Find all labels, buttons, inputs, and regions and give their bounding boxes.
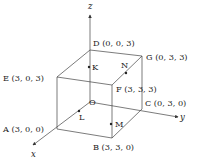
vertex-e-label: E (3, 0, 3) [3,73,44,83]
point-n-label: N [121,60,128,70]
y-axis-label: y [179,112,185,122]
vertex-d-label: D (0, 0, 3) [93,38,135,48]
vertex-c-label: C (0, 3, 0) [145,98,186,108]
point-k-dot [88,66,90,68]
point-m-dot [110,123,112,125]
axes [33,15,178,145]
point-m-label: M [115,119,123,129]
vertex-g-label: G (0, 3, 3) [146,52,188,62]
origin-label: O [89,97,96,107]
z-axis-label: z [87,1,93,11]
cube-diagram: z y x D (0, 0, 3) G (0, 3, 3) E (3, 0, 3… [0,0,200,166]
vertex-a-label: A (3, 0, 0) [2,124,44,134]
vertex-b-label: B (3, 3, 0) [93,142,134,152]
cube-edges [57,50,142,138]
vertex-f-label: F (3, 3, 3) [116,84,157,94]
point-k-label: K [92,62,99,72]
x-axis-label: x [31,149,36,159]
point-n-dot [125,72,127,74]
interior-points [78,66,127,125]
point-l-label: L [79,112,85,122]
